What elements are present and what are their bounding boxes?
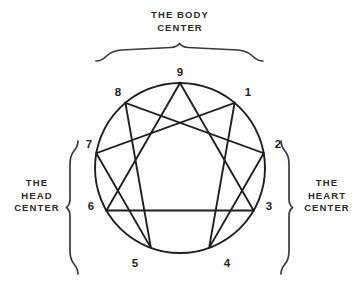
- label-body-center: THE BODY CENTER: [110, 9, 250, 34]
- label-heart-center: THE HEART CENTER: [296, 177, 358, 215]
- inner-hexad: [96, 103, 263, 248]
- point-number-7: 7: [82, 137, 96, 151]
- point-number-6: 6: [84, 199, 98, 213]
- brace-head-center: [67, 141, 79, 274]
- point-number-3: 3: [262, 199, 276, 213]
- point-number-4: 4: [220, 256, 234, 270]
- enneagram-diagram: THE BODY CENTER THE HEAD CENTER THE HEAR…: [0, 0, 361, 287]
- point-number-2: 2: [271, 137, 285, 151]
- inner-triangle: [106, 83, 253, 211]
- enneagram-graphic: [0, 0, 361, 287]
- enneagram-circle: [95, 83, 265, 253]
- point-number-9: 9: [173, 65, 187, 79]
- point-number-5: 5: [128, 256, 142, 270]
- brace-heart-center: [281, 141, 293, 274]
- brace-body-center: [96, 44, 263, 62]
- point-number-1: 1: [241, 85, 255, 99]
- label-head-center: THE HEAD CENTER: [6, 177, 68, 215]
- point-number-8: 8: [111, 85, 125, 99]
